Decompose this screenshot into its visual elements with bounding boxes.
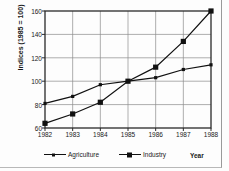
legend-line-agriculture (44, 154, 66, 155)
x-tick-label: 1988 (196, 131, 226, 138)
x-tick-label: 1987 (168, 131, 198, 138)
legend-marker-agriculture (52, 154, 55, 157)
x-tick-label: 1985 (113, 131, 143, 138)
legend-label-agriculture: Agriculture (68, 151, 99, 158)
legend-item-industry: Industry (119, 151, 166, 158)
x-tick-label: 1983 (58, 131, 88, 138)
x-tick-label: 1984 (85, 131, 115, 138)
legend-marker-industry (127, 153, 132, 158)
x-tick-label: 1982 (30, 131, 60, 138)
x-axis-title: Year (190, 152, 204, 159)
axis-tick-marks (42, 11, 211, 131)
plot-area (0, 0, 229, 171)
legend-label-industry: Industry (143, 151, 166, 158)
x-tick-label: 1986 (141, 131, 171, 138)
legend-item-agriculture: Agriculture (44, 151, 99, 158)
chart-figure: Indices (1985 = 100) 160 140 120 100 80 … (0, 0, 229, 171)
legend-line-industry (119, 154, 141, 155)
